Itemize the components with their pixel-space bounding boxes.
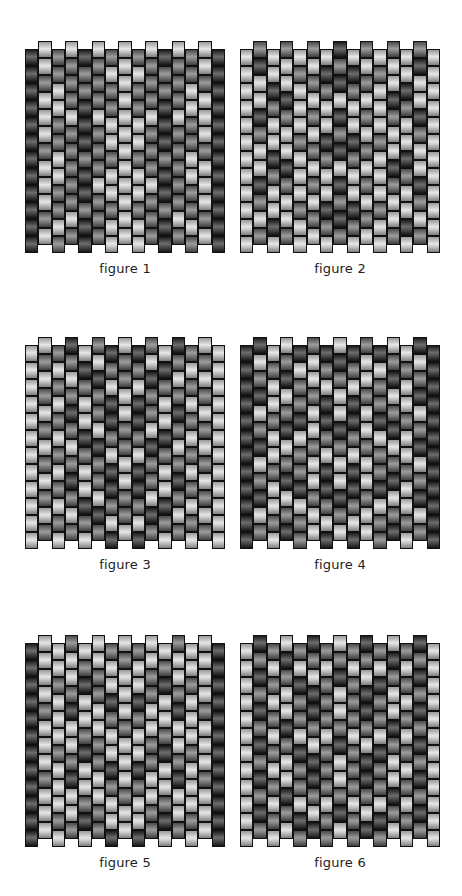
bead xyxy=(25,813,38,830)
bead xyxy=(198,75,211,92)
bead xyxy=(92,524,105,541)
bead xyxy=(333,669,346,686)
bead xyxy=(105,464,118,481)
bead xyxy=(427,83,440,100)
bead xyxy=(413,635,426,652)
bead xyxy=(198,771,211,788)
bead xyxy=(307,456,320,473)
bead xyxy=(293,498,306,515)
bead xyxy=(92,211,105,228)
bead xyxy=(293,779,306,796)
bead xyxy=(293,345,306,362)
bead xyxy=(240,779,253,796)
bead xyxy=(373,236,386,253)
bead xyxy=(333,75,346,92)
bead xyxy=(52,49,65,66)
bead xyxy=(38,143,51,160)
bead xyxy=(78,447,91,464)
bead xyxy=(427,202,440,219)
bead xyxy=(132,677,145,694)
bead xyxy=(172,194,185,211)
bead xyxy=(105,711,118,728)
bead xyxy=(105,694,118,711)
bead xyxy=(38,41,51,58)
bead xyxy=(38,422,51,439)
bead xyxy=(92,686,105,703)
bead xyxy=(185,532,198,549)
bead xyxy=(267,796,280,813)
bead xyxy=(400,447,413,464)
bead xyxy=(25,236,38,253)
bead xyxy=(387,805,400,822)
bead xyxy=(400,66,413,83)
bead xyxy=(293,532,306,549)
bead xyxy=(92,754,105,771)
bead xyxy=(373,498,386,515)
bead xyxy=(78,779,91,796)
bead xyxy=(158,396,171,413)
bead xyxy=(240,532,253,549)
bead xyxy=(65,354,78,371)
bead xyxy=(172,473,185,490)
bead xyxy=(25,515,38,532)
bead xyxy=(413,788,426,805)
bead xyxy=(132,83,145,100)
bead xyxy=(267,745,280,762)
bead xyxy=(145,41,158,58)
bead xyxy=(413,524,426,541)
bead xyxy=(118,473,131,490)
bead xyxy=(78,532,91,549)
bead xyxy=(320,202,333,219)
bead xyxy=(158,813,171,830)
bead xyxy=(92,737,105,754)
bead xyxy=(65,473,78,490)
bead xyxy=(65,126,78,143)
bead xyxy=(52,515,65,532)
bead xyxy=(105,830,118,847)
bead xyxy=(280,524,293,541)
bead xyxy=(333,456,346,473)
bead xyxy=(320,694,333,711)
bead xyxy=(240,711,253,728)
bead xyxy=(320,677,333,694)
bead xyxy=(373,643,386,660)
bead xyxy=(400,796,413,813)
bead xyxy=(307,805,320,822)
bead xyxy=(333,143,346,160)
bead xyxy=(360,439,373,456)
bead xyxy=(198,456,211,473)
bead xyxy=(158,362,171,379)
bead xyxy=(293,396,306,413)
bead xyxy=(253,58,266,75)
bead xyxy=(427,515,440,532)
bead xyxy=(172,720,185,737)
bead xyxy=(118,686,131,703)
bead xyxy=(333,788,346,805)
bead xyxy=(320,362,333,379)
bead xyxy=(413,371,426,388)
bead xyxy=(172,143,185,160)
bead xyxy=(293,677,306,694)
bead xyxy=(185,711,198,728)
bead xyxy=(320,660,333,677)
bead xyxy=(158,728,171,745)
bead xyxy=(387,524,400,541)
bead xyxy=(105,677,118,694)
bead xyxy=(240,481,253,498)
bead xyxy=(400,464,413,481)
bead xyxy=(320,185,333,202)
bead xyxy=(118,211,131,228)
bead xyxy=(373,134,386,151)
bead xyxy=(240,185,253,202)
bead xyxy=(333,720,346,737)
bead xyxy=(307,524,320,541)
bead xyxy=(118,371,131,388)
bead xyxy=(158,643,171,660)
bead xyxy=(360,126,373,143)
bead xyxy=(172,422,185,439)
bead xyxy=(145,194,158,211)
bead xyxy=(413,160,426,177)
bead xyxy=(280,788,293,805)
bead xyxy=(132,379,145,396)
bead xyxy=(38,371,51,388)
